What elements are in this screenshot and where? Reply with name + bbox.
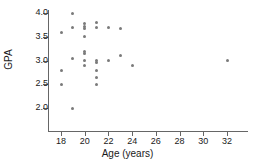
x-tick-label: 28 — [167, 137, 193, 146]
scatter-point — [119, 27, 122, 30]
scatter-point — [71, 12, 74, 15]
x-tick-label: 32 — [214, 137, 240, 146]
scatter-point — [83, 64, 86, 67]
scatter-point — [60, 31, 63, 34]
y-tick-label-wrap: 3.0 — [16, 56, 48, 57]
y-tick-label-wrap: 4.0 — [16, 8, 48, 9]
scatter-point — [95, 83, 98, 86]
x-tick-label: 30 — [190, 137, 216, 146]
scatter-point — [60, 83, 63, 86]
scatter-point — [83, 50, 86, 53]
scatter-point — [83, 25, 86, 28]
scatter-point — [71, 57, 74, 60]
scatter-point — [83, 22, 86, 25]
x-tick-label: 24 — [119, 137, 145, 146]
scatter-point — [131, 64, 134, 67]
scatter-point — [226, 59, 229, 62]
scatter-point — [83, 35, 86, 38]
y-tick-label-wrap: 2.5 — [16, 79, 48, 80]
y-axis-title: GPA — [3, 40, 14, 80]
x-axis-line — [48, 131, 248, 132]
scatter-point — [60, 69, 63, 72]
scatter-point — [83, 59, 86, 62]
scatter-point — [95, 61, 98, 64]
scatter-point — [95, 69, 98, 72]
x-axis-title: Age (years) — [0, 148, 255, 159]
scatter-plot-figure: GPA Age (years) 2.02.53.03.54.0 18202224… — [0, 0, 255, 168]
x-tick-label: 20 — [72, 137, 98, 146]
y-tick-label: 3.0 — [24, 56, 48, 65]
scatter-point — [95, 76, 98, 79]
scatter-point — [83, 27, 86, 30]
y-tick-label: 2.5 — [24, 79, 48, 88]
scatter-point — [71, 107, 74, 110]
scatter-point — [107, 59, 110, 62]
x-tick-label: 26 — [143, 137, 169, 146]
scatter-point — [119, 54, 122, 57]
scatter-point — [95, 21, 98, 24]
scatter-point — [83, 52, 86, 55]
scatter-point — [95, 26, 98, 29]
y-tick-label-wrap: 3.5 — [16, 32, 48, 33]
x-tick-label: 22 — [95, 137, 121, 146]
scatter-point — [71, 26, 74, 29]
y-tick-label: 4.0 — [24, 8, 48, 17]
y-tick-label: 2.0 — [24, 103, 48, 112]
y-axis-line — [48, 10, 49, 132]
y-tick-label-wrap: 2.0 — [16, 103, 48, 104]
scatter-point — [95, 59, 98, 62]
x-tick-label: 18 — [48, 137, 74, 146]
y-tick-label: 3.5 — [24, 32, 48, 41]
scatter-point — [107, 26, 110, 29]
